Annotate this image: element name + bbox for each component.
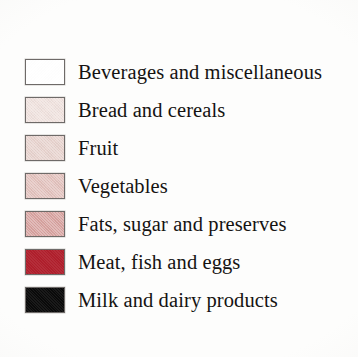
legend-item: Beverages and miscellaneous	[0, 53, 358, 91]
chart-legend: Beverages and miscellaneousBread and cer…	[0, 0, 358, 357]
legend-item-label: Vegetables	[78, 176, 168, 197]
legend-item: Milk and dairy products	[0, 281, 358, 319]
swatch-meat-fish-and-eggs	[25, 249, 65, 275]
swatch-milk-and-dairy-products	[25, 287, 65, 313]
legend-item-label: Bread and cereals	[78, 100, 225, 121]
swatch-bread-and-cereals	[25, 97, 65, 123]
legend-item-label: Milk and dairy products	[78, 290, 278, 311]
legend-swatch-container	[25, 97, 65, 123]
legend-swatch-container	[25, 211, 65, 237]
legend-item: Bread and cereals	[0, 91, 358, 129]
legend-swatch-container	[25, 59, 65, 85]
legend-swatch-container	[25, 173, 65, 199]
legend-swatch-container	[25, 287, 65, 313]
legend-item-list: Beverages and miscellaneousBread and cer…	[0, 0, 358, 319]
swatch-fruit	[25, 135, 65, 161]
legend-item-label: Fats, sugar and preserves	[78, 214, 287, 235]
legend-item-label: Beverages and miscellaneous	[78, 62, 322, 83]
legend-swatch-container	[25, 135, 65, 161]
swatch-vegetables	[25, 173, 65, 199]
legend-item: Fruit	[0, 129, 358, 167]
legend-item: Meat, fish and eggs	[0, 243, 358, 281]
legend-item-label: Meat, fish and eggs	[78, 252, 240, 273]
legend-item: Vegetables	[0, 167, 358, 205]
legend-swatch-container	[25, 249, 65, 275]
legend-item: Fats, sugar and preserves	[0, 205, 358, 243]
legend-item-label: Fruit	[78, 138, 118, 159]
swatch-fats-sugar-and-preserves	[25, 211, 65, 237]
swatch-beverages-and-miscellaneous	[25, 59, 65, 85]
